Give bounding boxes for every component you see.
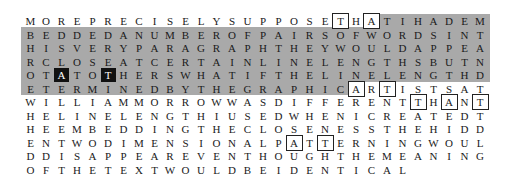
grid-letter: E [302, 122, 317, 136]
grid-letter: R [147, 68, 162, 82]
grid-letter: I [39, 95, 54, 109]
grid-letter: O [85, 136, 100, 150]
grid-letter: W [225, 95, 240, 109]
grid-letter: D [395, 41, 410, 55]
grid-letter: I [442, 28, 457, 42]
grid-letter: H [426, 95, 441, 109]
grid-letter: E [23, 136, 38, 150]
grid-letter: I [287, 28, 302, 42]
grid-letter: B [426, 55, 441, 69]
grid-letter: G [194, 41, 209, 55]
grid-letter: A [426, 14, 441, 28]
grid-letter: R [380, 109, 395, 123]
grid-letter: C [333, 82, 348, 96]
grid-letter: L [256, 122, 271, 136]
grid-letter: I [395, 82, 410, 96]
grid-letter: L [318, 55, 333, 69]
grid-letter: R [101, 41, 116, 55]
grid-letter: O [333, 28, 348, 42]
grid-letter: M [70, 122, 85, 136]
grid-letter: H [23, 122, 38, 136]
grid-letter: W [426, 136, 441, 150]
grid-letter: N [349, 68, 364, 82]
grid-letter: P [426, 41, 441, 55]
grid-letter: F [39, 163, 54, 177]
grid-letter: P [271, 14, 286, 28]
grid-letter: E [302, 41, 317, 55]
grid-letter: T [302, 136, 317, 150]
grid-letter: H [395, 55, 410, 69]
grid-letter: E [256, 109, 271, 123]
grid-letter: L [318, 68, 333, 82]
grid-letter: V [70, 41, 85, 55]
grid-letter: N [225, 149, 240, 163]
grid-letter: G [178, 122, 193, 136]
grid-letter: E [318, 109, 333, 123]
grid-letter: E [194, 28, 209, 42]
grid-letter: M [132, 136, 147, 150]
grid-letter: O [209, 136, 224, 150]
grid-letter: T [426, 109, 441, 123]
grid-letter: D [287, 163, 302, 177]
grid-letter: S [302, 14, 317, 28]
grid-letter: O [271, 149, 286, 163]
grid-letter: D [411, 28, 426, 42]
grid-letter: T [380, 122, 395, 136]
grid-letter: G [426, 68, 441, 82]
grid-letter: E [85, 41, 100, 55]
grid-letter: N [457, 28, 472, 42]
grid-letter: E [132, 68, 147, 82]
grid-letter: W [178, 68, 193, 82]
grid-letter: G [240, 82, 255, 96]
grid-letter: E [302, 68, 317, 82]
grid-letter: I [85, 95, 100, 109]
grid-letter: E [178, 14, 193, 28]
grid-letter: U [457, 136, 472, 150]
grid-letter: Y [178, 82, 193, 96]
grid-letter: N [457, 149, 472, 163]
grid-letter: G [302, 149, 317, 163]
grid-letter: D [271, 95, 286, 109]
grid-letter: B [85, 122, 100, 136]
grid-letter: N [364, 136, 379, 150]
grid-letter: D [473, 68, 488, 82]
grid-letter: A [271, 28, 286, 42]
grid-letter: D [101, 28, 116, 42]
grid-letter: B [23, 28, 38, 42]
grid-letter: L [54, 95, 69, 109]
grid-letter: F [302, 95, 317, 109]
grid-letter: M [85, 82, 100, 96]
grid-letter: L [380, 68, 395, 82]
grid-letter: F [349, 28, 364, 42]
grid-letter: E [116, 163, 131, 177]
grid-letter: S [178, 136, 193, 150]
grid-letter: T [240, 149, 255, 163]
grid-letter: U [364, 41, 379, 55]
grid-letter: U [147, 28, 162, 42]
grid-letter: T [194, 55, 209, 69]
grid-letter: U [287, 149, 302, 163]
grid-letter: N [380, 95, 395, 109]
grid-letter: I [318, 82, 333, 96]
grid-letter: W [209, 95, 224, 109]
grid-letter: M [380, 149, 395, 163]
grid-letter: S [318, 28, 333, 42]
grid-letter: R [54, 14, 69, 28]
grid-letter: I [54, 149, 69, 163]
grid-letter: I [39, 41, 54, 55]
grid-letter: E [333, 136, 348, 150]
grid-letter: N [287, 55, 302, 69]
grid-letter: I [287, 95, 302, 109]
grid-letter: H [194, 109, 209, 123]
grid-letter: Y [209, 14, 224, 28]
grid-letter: S [411, 55, 426, 69]
grid-letter: A [411, 149, 426, 163]
grid-letter: R [209, 28, 224, 42]
grid-letter: E [132, 149, 147, 163]
grid-letter: R [364, 82, 379, 96]
grid-letter: U [194, 163, 209, 177]
grid-letter: A [240, 95, 255, 109]
grid-letter: D [132, 122, 147, 136]
grid-letter: E [395, 68, 410, 82]
grid-letter: T [225, 68, 240, 82]
